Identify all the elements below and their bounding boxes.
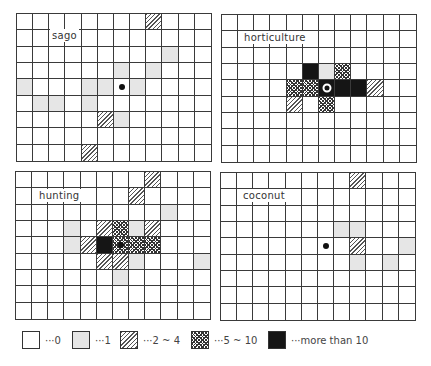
grid-cell bbox=[318, 271, 334, 287]
grid-cell bbox=[384, 80, 400, 96]
grid-cell bbox=[145, 188, 161, 204]
grid-cell bbox=[383, 189, 399, 205]
grid-cell bbox=[113, 254, 129, 270]
grid-cell bbox=[32, 221, 48, 237]
grid-cell bbox=[334, 287, 350, 303]
grid-cell bbox=[318, 189, 334, 205]
grid-cell bbox=[146, 30, 162, 46]
grid-cell bbox=[350, 304, 366, 320]
grid-cell bbox=[178, 254, 194, 270]
panel-sago: sago bbox=[16, 13, 212, 162]
grid-cell bbox=[113, 270, 129, 286]
grid-cell bbox=[49, 63, 65, 79]
grid-cell bbox=[145, 254, 161, 270]
grid-cell bbox=[64, 172, 80, 188]
grid-cell bbox=[303, 113, 319, 129]
grid-cell bbox=[318, 222, 334, 238]
grid-cell bbox=[400, 129, 416, 145]
grid-cell bbox=[399, 271, 415, 287]
grid-cell bbox=[178, 172, 194, 188]
grid-cell bbox=[16, 221, 32, 237]
legend-text: ···5 ~ 10 bbox=[214, 335, 257, 346]
grid-cell bbox=[334, 173, 350, 189]
grid-cell bbox=[178, 237, 194, 253]
grid-cell bbox=[81, 188, 97, 204]
grid-cell bbox=[161, 221, 177, 237]
grid-cell bbox=[98, 128, 114, 144]
grid-cell bbox=[367, 113, 383, 129]
grid-cell bbox=[302, 271, 318, 287]
grid-cell bbox=[366, 173, 382, 189]
grid-cell bbox=[146, 47, 162, 63]
grid-cell bbox=[146, 63, 162, 79]
grid-cell bbox=[33, 14, 49, 30]
grid-cell bbox=[351, 113, 367, 129]
grid-cell bbox=[221, 271, 237, 287]
grid-cell bbox=[318, 206, 334, 222]
grid-cell bbox=[162, 47, 178, 63]
grid-cell bbox=[146, 128, 162, 144]
grid-cell bbox=[49, 14, 65, 30]
grid-cell bbox=[286, 287, 302, 303]
grid-cell bbox=[130, 96, 146, 112]
grid-cell bbox=[302, 238, 318, 254]
grid-cell bbox=[350, 271, 366, 287]
grid-cell bbox=[254, 80, 270, 96]
grid-cell bbox=[221, 189, 237, 205]
grid-cell bbox=[81, 221, 97, 237]
center-dot-marker-icon bbox=[323, 243, 329, 249]
grid-cell bbox=[81, 303, 97, 319]
grid-cell bbox=[97, 270, 113, 286]
grid-cell bbox=[130, 14, 146, 30]
grid-cell bbox=[114, 145, 130, 161]
grid-cell bbox=[319, 64, 335, 80]
grid-cell bbox=[161, 254, 177, 270]
grid-cell bbox=[222, 97, 238, 113]
grid-cell bbox=[33, 145, 49, 161]
grid-cell bbox=[113, 188, 129, 204]
grid-cell bbox=[367, 48, 383, 64]
grid-cell bbox=[384, 129, 400, 145]
grid-cell bbox=[64, 303, 80, 319]
grid-cell bbox=[351, 31, 367, 47]
grid-cell bbox=[335, 64, 351, 80]
grid-cell bbox=[194, 221, 210, 237]
grid-cell bbox=[221, 287, 237, 303]
grid-cell bbox=[16, 254, 32, 270]
grid-cell bbox=[33, 79, 49, 95]
grid-cell bbox=[384, 48, 400, 64]
grid-cell bbox=[269, 255, 285, 271]
grid-cell bbox=[222, 80, 238, 96]
grid-cell bbox=[350, 222, 366, 238]
grid-cell bbox=[82, 14, 98, 30]
grid-cell bbox=[129, 205, 145, 221]
grid-cell bbox=[237, 173, 253, 189]
grid-cell bbox=[367, 64, 383, 80]
grid-cell bbox=[65, 128, 81, 144]
grid-cell bbox=[49, 47, 65, 63]
grid-cell bbox=[194, 188, 210, 204]
grid-cell bbox=[130, 145, 146, 161]
grid-cell bbox=[32, 254, 48, 270]
grid-cell bbox=[194, 270, 210, 286]
grid-cell bbox=[48, 172, 64, 188]
grid-cell bbox=[286, 271, 302, 287]
grid-cell bbox=[383, 287, 399, 303]
grid-cell bbox=[17, 79, 33, 95]
grid-cell bbox=[287, 80, 303, 96]
grid-cell bbox=[238, 80, 254, 96]
grid-cell bbox=[97, 286, 113, 302]
grid-cell bbox=[270, 15, 286, 31]
grid-cell bbox=[81, 254, 97, 270]
grid-cell bbox=[222, 146, 238, 162]
grid-cell bbox=[269, 238, 285, 254]
grid-cell bbox=[366, 238, 382, 254]
grid-cell bbox=[303, 48, 319, 64]
grid-cell bbox=[270, 129, 286, 145]
grid-cell bbox=[221, 222, 237, 238]
grid-cell bbox=[269, 222, 285, 238]
grid-cell bbox=[399, 287, 415, 303]
grid-cell bbox=[253, 287, 269, 303]
grid-cell bbox=[335, 48, 351, 64]
grid-cell bbox=[82, 112, 98, 128]
